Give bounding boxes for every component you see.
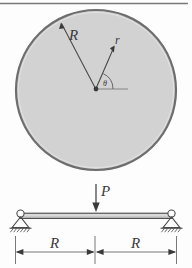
circle-center-dot [94, 87, 99, 92]
mechanics-figure: R r θ P [0, 0, 192, 268]
simply-supported-beam: P [10, 183, 183, 264]
right-support-hatching [161, 228, 181, 232]
load-arrow-head [92, 203, 99, 213]
dimension-arrow-left-start [16, 249, 24, 255]
dimension-label-left: R [49, 235, 59, 251]
radius-R-label: R [68, 27, 78, 43]
dimension-arrow-right-end [168, 249, 176, 255]
left-support-hatching [10, 228, 30, 232]
right-support-pin-circle [168, 210, 175, 217]
radius-r-label: r [115, 33, 120, 47]
angle-theta-label: θ [103, 79, 107, 88]
dimension-arrow-right-start [96, 249, 104, 255]
dimension-arrow-left-end [87, 249, 95, 255]
dimension-group: R R [16, 235, 177, 264]
load-P-label: P [100, 183, 110, 199]
figure-canvas: R r θ P [0, 0, 192, 268]
dimension-label-right: R [130, 235, 140, 251]
circular-cross-section: R r θ [16, 10, 176, 170]
left-support-pin-circle [17, 210, 24, 217]
beam-bar [20, 213, 172, 218]
